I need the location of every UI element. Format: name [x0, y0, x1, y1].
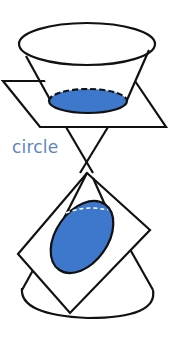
upper-cone-rim	[19, 23, 155, 65]
double-cone-diagram	[0, 0, 171, 353]
lower-cone	[18, 173, 153, 318]
circle-label: circle	[12, 137, 58, 157]
